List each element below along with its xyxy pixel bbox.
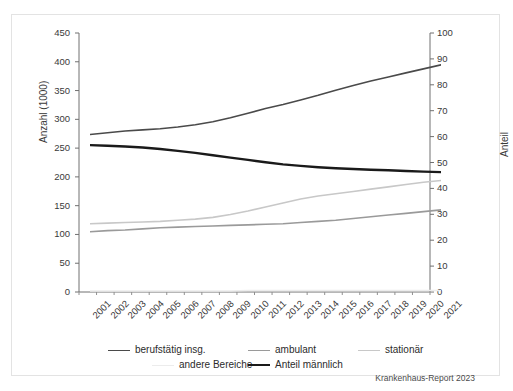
legend-swatch-icon [152, 365, 174, 366]
legend-label: berufstätig insg. [135, 345, 206, 355]
left-tick-label: 250 [54, 143, 70, 153]
legend-swatch-icon [248, 350, 270, 351]
legend-swatch-icon [248, 364, 270, 366]
right-tick-label: 100 [437, 28, 453, 38]
legend-label: Anteil männlich [275, 360, 343, 370]
figure-canvas: Anzahl (1000) Anteil 4504003503002502001… [0, 0, 513, 391]
source-credit: Krankenhaus-Report 2023 [12, 373, 475, 383]
left-tick-label: 200 [54, 172, 70, 182]
series-line [90, 210, 441, 232]
chart-legend: berufstätig insg.ambulantstationärandere… [108, 345, 438, 375]
legend-label: andere Bereiche [179, 360, 252, 370]
left-tick-label: 50 [59, 258, 70, 268]
legend-item[interactable]: andere Bereiche [152, 360, 252, 370]
left-tick-label: 150 [54, 201, 70, 211]
left-tick-label: 300 [54, 114, 70, 124]
left-tick-label: 400 [54, 57, 70, 67]
chart-frame: Anzahl (1000) Anteil 4504003503002502001… [11, 14, 500, 376]
left-tick-label: 350 [54, 86, 70, 96]
legend-label: ambulant [275, 345, 316, 355]
legend-label: stationär [385, 345, 423, 355]
legend-swatch-icon [108, 350, 130, 351]
legend-item[interactable]: berufstätig insg. [108, 345, 206, 355]
series-line [90, 65, 441, 135]
right-axis-title: Anteil [499, 132, 510, 157]
series-line [90, 145, 441, 172]
left-axis-title: Anzahl (1000) [38, 81, 49, 143]
series-line [90, 181, 441, 224]
legend-item[interactable]: Anteil männlich [248, 360, 343, 370]
legend-item[interactable]: stationär [358, 345, 423, 355]
legend-row: berufstätig insg.ambulantstationär [108, 345, 438, 360]
left-tick-label: 0 [65, 287, 70, 297]
legend-item[interactable]: ambulant [248, 345, 316, 355]
plot-area [90, 47, 441, 306]
series-lines [90, 47, 441, 306]
left-tick-label: 450 [54, 28, 70, 38]
legend-swatch-icon [358, 350, 380, 351]
left-tick-label: 100 [54, 229, 70, 239]
series-line [90, 290, 441, 291]
